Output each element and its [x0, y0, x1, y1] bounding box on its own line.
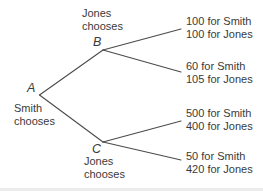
- outcome-2-smith: 60 for Smith: [186, 60, 253, 73]
- node-a-label: A: [27, 82, 35, 94]
- page-edge-artifact: [0, 188, 263, 191]
- edge-b-to-outcome-2: [103, 50, 181, 72]
- outcome-4-jones: 420 for Jones: [186, 163, 253, 176]
- outcome-1-smith: 100 for Smith: [186, 15, 253, 28]
- node-c-label: C: [92, 143, 101, 155]
- node-a-caption: Smith chooses: [14, 102, 62, 128]
- outcome-1-jones: 100 for Jones: [186, 28, 253, 41]
- outcome-3: 500 for Smith 400 for Jones: [186, 107, 253, 133]
- outcome-1: 100 for Smith 100 for Jones: [186, 15, 253, 41]
- edge-c-to-outcome-3: [103, 121, 181, 142]
- outcome-4: 50 for Smith 420 for Jones: [186, 150, 253, 176]
- decision-tree-diagram: Jones chooses B A Smith chooses C Jones …: [0, 0, 263, 191]
- outcome-3-jones: 400 for Jones: [186, 120, 253, 133]
- node-b-caption: Jones chooses: [82, 7, 130, 33]
- edge-a-to-b: [40, 50, 104, 95]
- outcome-2: 60 for Smith 105 for Jones: [186, 60, 253, 86]
- outcome-2-jones: 105 for Jones: [186, 73, 253, 86]
- node-c-caption: Jones chooses: [84, 155, 132, 181]
- node-b-label: B: [93, 36, 101, 48]
- outcome-3-smith: 500 for Smith: [186, 107, 253, 120]
- outcome-4-smith: 50 for Smith: [186, 150, 253, 163]
